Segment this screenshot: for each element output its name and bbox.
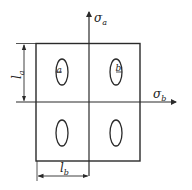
sigma-b-label: σb xyxy=(153,87,166,103)
cell-top-right: b xyxy=(110,59,122,85)
cell-bottom-right xyxy=(110,120,122,146)
cell-top-left: a xyxy=(56,59,68,85)
ellipse-defect xyxy=(56,120,68,146)
sigma-a-label: σa xyxy=(94,11,107,27)
stress-grid-diagram: σa σb la lb a b xyxy=(0,0,192,190)
ellipse-defect xyxy=(110,120,122,146)
cell-bottom-left xyxy=(56,120,68,146)
la-label: la xyxy=(10,70,26,79)
ellipse-label-a: a xyxy=(57,65,62,75)
lb-label: lb xyxy=(60,161,69,177)
ellipse-label-b: b xyxy=(116,63,122,73)
